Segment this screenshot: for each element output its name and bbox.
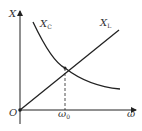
y-axis-label: X bbox=[9, 9, 16, 19]
x-axis-label: ω bbox=[127, 109, 135, 119]
omega0-label: ω0 bbox=[58, 109, 70, 120]
intersection-point bbox=[64, 67, 67, 70]
origin-label: O bbox=[9, 108, 17, 118]
xl-line bbox=[20, 30, 119, 110]
xc-curve bbox=[33, 22, 120, 89]
reactance-diagram bbox=[0, 0, 142, 131]
xc-label: XC bbox=[40, 19, 52, 30]
origin-point bbox=[18, 108, 22, 112]
xl-label: XL bbox=[100, 18, 111, 29]
